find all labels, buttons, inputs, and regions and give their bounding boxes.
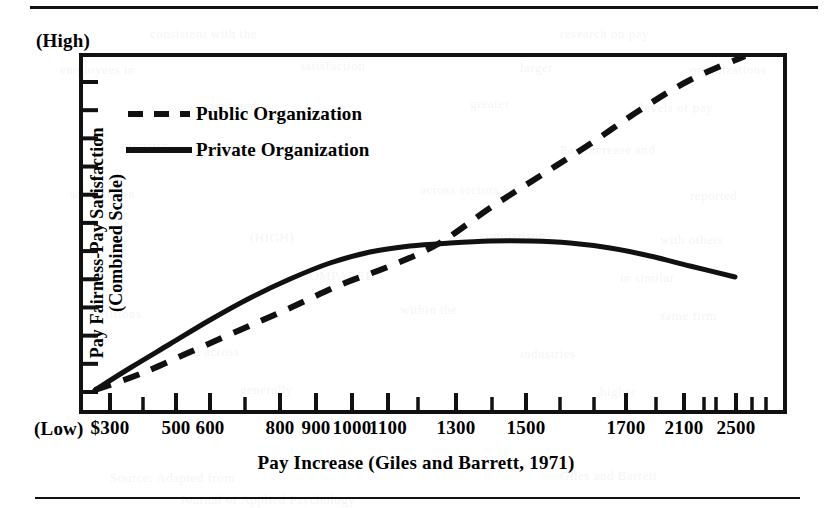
x-axis-tick-label: 800	[265, 417, 294, 439]
legend-row-private: Private Organization	[196, 132, 496, 168]
legend-label-public: Public Organization	[196, 103, 362, 125]
y-axis-ticks	[83, 82, 98, 392]
legend: Public Organization Private Organization	[196, 96, 496, 168]
x-axis-tick-label: 2100	[665, 417, 704, 439]
figure-pay-increase-satisfaction: (High) (Low) Pay Fairness-Pay Satisfacti…	[0, 0, 832, 508]
x-axis-tick-label: $300	[91, 417, 130, 439]
series-private-organization-line	[95, 241, 735, 390]
x-axis-tick-label: 1000	[333, 417, 372, 439]
legend-row-public: Public Organization	[196, 96, 496, 132]
x-axis-ticks	[110, 393, 766, 410]
x-axis-tick-label: 2500	[717, 417, 756, 439]
x-axis-tick-label: 600	[195, 417, 224, 439]
x-axis-tick-label: 1500	[507, 417, 546, 439]
x-axis-tick-label: 1300	[437, 417, 476, 439]
x-axis-tick-label: 1700	[607, 417, 646, 439]
x-axis-tick-labels: $300500600800900100011001300150017002100…	[0, 417, 832, 443]
x-axis-title: Pay Increase (Giles and Barrett, 1971)	[0, 452, 832, 474]
x-axis-tick-label: 900	[301, 417, 330, 439]
x-axis-tick-label: 1100	[369, 417, 407, 439]
legend-label-private: Private Organization	[196, 139, 370, 161]
x-axis-tick-label: 500	[161, 417, 190, 439]
